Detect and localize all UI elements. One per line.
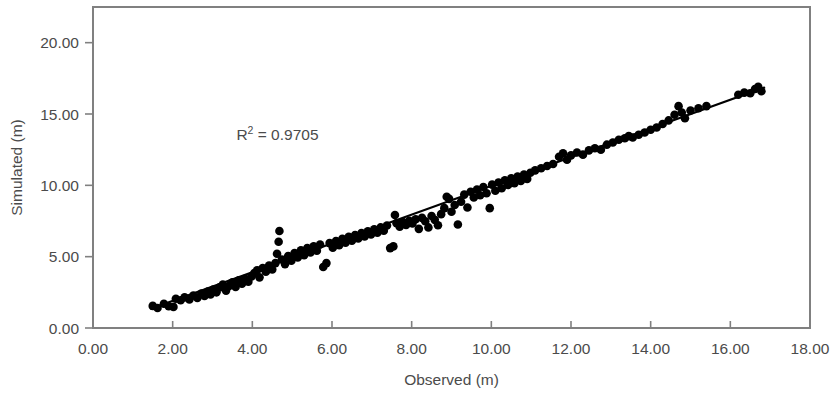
data-point bbox=[415, 225, 424, 234]
x-tick-label: 4.00 bbox=[237, 340, 268, 357]
linear-regression-line bbox=[151, 88, 764, 309]
x-tick-label: 18.00 bbox=[791, 340, 830, 357]
data-point bbox=[274, 237, 283, 246]
x-tick-label: 0.00 bbox=[78, 340, 109, 357]
y-tick-label: 20.00 bbox=[40, 34, 79, 51]
x-tick-label: 6.00 bbox=[317, 340, 348, 357]
y-tick-label: 0.00 bbox=[49, 320, 80, 337]
data-point bbox=[434, 221, 443, 230]
y-axis-ticks bbox=[85, 43, 93, 328]
x-tick-label: 16.00 bbox=[711, 340, 750, 357]
data-point bbox=[391, 211, 400, 220]
y-axis-tick-labels: 0.005.0010.0015.0020.00 bbox=[40, 34, 79, 336]
x-axis-tick-labels: 0.002.004.006.008.0010.0012.0014.0016.00… bbox=[78, 340, 830, 357]
x-tick-label: 8.00 bbox=[397, 340, 428, 357]
data-point bbox=[389, 242, 398, 251]
plot-area-border bbox=[93, 7, 810, 328]
chart-canvas: 0.002.004.006.008.0010.0012.0014.0016.00… bbox=[0, 0, 838, 398]
data-point bbox=[463, 203, 472, 212]
data-point bbox=[485, 204, 494, 213]
y-axis-title: Simulated (m) bbox=[8, 119, 25, 215]
plot-frame bbox=[93, 7, 810, 328]
data-point bbox=[169, 303, 178, 312]
data-point bbox=[454, 220, 463, 229]
y-tick-label: 10.00 bbox=[40, 177, 79, 194]
scatter-plot-figure: 0.002.004.006.008.0010.0012.0014.0016.00… bbox=[0, 0, 838, 398]
r-squared-prefix: R bbox=[236, 126, 247, 143]
x-axis-title: Observed (m) bbox=[404, 371, 499, 388]
data-point bbox=[255, 273, 264, 282]
y-tick-label: 15.00 bbox=[40, 106, 79, 123]
trend-line bbox=[151, 88, 764, 309]
x-tick-label: 14.00 bbox=[631, 340, 670, 357]
x-tick-label: 10.00 bbox=[472, 340, 511, 357]
x-tick-label: 12.00 bbox=[552, 340, 591, 357]
x-tick-label: 2.00 bbox=[158, 340, 189, 357]
r-squared-annotation: R2 = 0.9705 bbox=[236, 124, 318, 143]
x-axis-ticks bbox=[93, 321, 810, 328]
data-point bbox=[322, 259, 331, 268]
data-point bbox=[275, 227, 284, 236]
r-squared-suffix: = 0.9705 bbox=[253, 126, 318, 143]
data-point bbox=[482, 189, 491, 198]
data-point bbox=[424, 223, 433, 232]
y-tick-label: 5.00 bbox=[49, 248, 80, 265]
